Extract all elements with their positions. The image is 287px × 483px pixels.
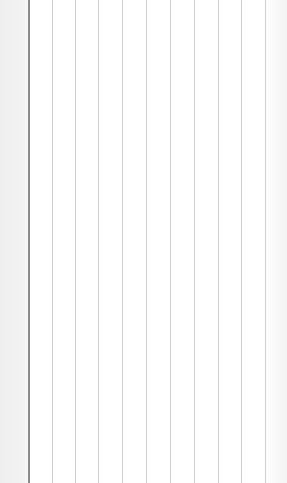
vertical-line (122, 0, 123, 483)
vertical-line-dark (28, 0, 30, 483)
vertical-line (75, 0, 76, 483)
vertical-line (218, 0, 219, 483)
vertical-line (170, 0, 171, 483)
vertical-line (146, 0, 147, 483)
vertical-line (265, 0, 266, 483)
vertical-line (241, 0, 242, 483)
vertical-line (98, 0, 99, 483)
vertical-line (194, 0, 195, 483)
vertical-line (52, 0, 53, 483)
striped-canvas (0, 0, 287, 483)
